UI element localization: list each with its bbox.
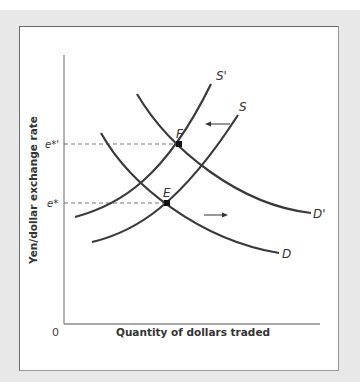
tick-e-star: e* <box>47 198 58 209</box>
label-d-prime: D' <box>313 207 326 221</box>
arrow-right-icon <box>204 213 228 218</box>
equilibrium-point-e <box>164 200 170 206</box>
y-axis-title: Yen/dollar exchange rate <box>27 116 39 265</box>
supply-curve-s <box>92 115 238 242</box>
origin-label: 0 <box>52 326 59 339</box>
label-e: E <box>163 186 171 200</box>
label-s-prime: S' <box>216 69 227 83</box>
arrow-left-icon <box>205 122 230 127</box>
label-s: S <box>239 100 247 114</box>
tick-e-star-prime: e*' <box>45 139 59 150</box>
label-d: D <box>282 247 291 261</box>
exchange-rate-chart: S' S D' D F E e*' e* 0 Quantity of dolla… <box>0 0 360 390</box>
x-axis-title: Quantity of dollars traded <box>116 326 270 338</box>
equilibrium-point-f <box>176 141 182 147</box>
label-f: F <box>176 127 184 141</box>
